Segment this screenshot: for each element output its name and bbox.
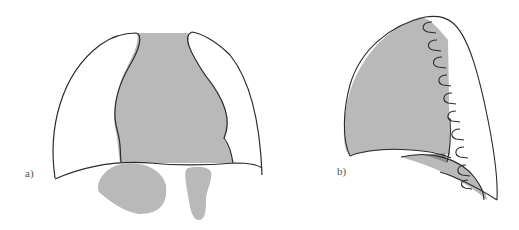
panel-b-diagram bbox=[344, 16, 497, 200]
panel-b-label: b) bbox=[337, 165, 346, 177]
rib-icon bbox=[456, 147, 468, 158]
panel-a-label: a) bbox=[25, 167, 34, 179]
figure-canvas bbox=[0, 0, 519, 230]
mediastinum-shade bbox=[114, 33, 233, 163]
rib-icon bbox=[452, 129, 464, 140]
lung-shade bbox=[344, 17, 450, 155]
stomach-shade bbox=[185, 167, 211, 220]
panel-a-diagram bbox=[53, 32, 262, 220]
rib-icon bbox=[448, 111, 460, 122]
liver-shade bbox=[98, 163, 166, 214]
